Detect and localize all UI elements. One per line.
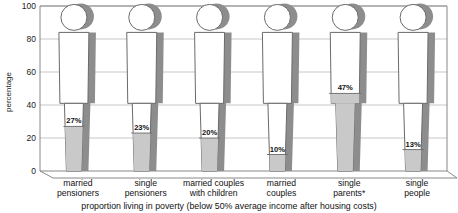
figure-head — [61, 4, 87, 30]
pictogram-bars — [59, 3, 435, 171]
value-label: 47% — [338, 83, 353, 92]
value-label: 13% — [405, 140, 420, 149]
figure-head — [264, 4, 290, 30]
figure-torso — [195, 32, 225, 103]
y-tick-label: 60 — [27, 67, 37, 77]
value-labels: 27%23%20%10%47%13% — [66, 83, 421, 153]
category-label-line: couples — [267, 188, 297, 198]
category-label-line: single — [338, 178, 361, 188]
category-label-line: married couples — [183, 178, 244, 188]
category-label-line: married — [267, 178, 296, 188]
pictogram-bar — [127, 3, 164, 171]
figure-head — [197, 4, 223, 30]
figure-torso — [262, 32, 292, 103]
category-label-line: single — [406, 178, 429, 188]
value-label: 27% — [66, 116, 81, 125]
figure-torso — [127, 32, 157, 103]
category-label-line: pensioners — [125, 188, 167, 198]
value-label: 10% — [270, 145, 285, 154]
figure-torso — [398, 32, 428, 103]
figure-head — [400, 4, 426, 30]
category-labels: marriedpensionerssinglepensionersmarried… — [57, 178, 430, 198]
figure-head — [129, 4, 155, 30]
pictogram-bar — [59, 3, 96, 171]
category-label-line: parents* — [333, 188, 366, 198]
y-tick-label: 0 — [31, 166, 36, 176]
figure-torso — [330, 32, 360, 103]
y-tick-label: 40 — [27, 100, 37, 110]
figure-fill-segment — [336, 103, 355, 171]
category-label-line: single — [135, 178, 158, 188]
chart-canvas: 020406080100 percentage 27%23%20%10%47%1… — [0, 0, 458, 213]
y-axis-title: percentage — [4, 71, 13, 112]
poverty-pictogram-chart: 020406080100 percentage 27%23%20%10%47%1… — [0, 0, 458, 213]
y-tick-label: 80 — [27, 34, 37, 44]
figure-head — [332, 4, 358, 30]
plot-frame — [40, 6, 457, 178]
pictogram-bar — [195, 3, 232, 171]
category-label-line: married — [63, 178, 92, 188]
y-axis-ticks: 020406080100 — [22, 1, 36, 176]
y-tick-label: 100 — [22, 1, 36, 11]
gridlines — [40, 6, 447, 138]
category-label-line: people — [404, 188, 430, 198]
value-label: 23% — [134, 123, 149, 132]
figure-torso — [59, 32, 89, 103]
y-tick-label: 20 — [27, 133, 37, 143]
category-label-line: pensioners — [57, 188, 99, 198]
category-label-line: with children — [189, 188, 238, 198]
chart-caption: proportion living in poverty (below 50% … — [81, 201, 376, 211]
value-label: 20% — [202, 128, 217, 137]
